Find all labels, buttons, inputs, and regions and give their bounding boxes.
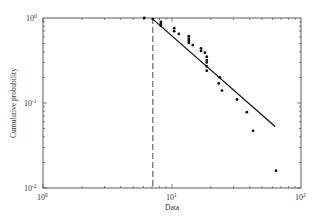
data-point bbox=[173, 30, 176, 33]
y-tick-label-1: 10-1 bbox=[24, 98, 37, 108]
y-axis-label: Cumulative probability bbox=[9, 68, 18, 138]
x-tick-labels: 100 101 102 bbox=[37, 192, 306, 202]
data-point bbox=[205, 65, 208, 68]
data-point bbox=[159, 24, 162, 27]
y-tick-label-2: 10-2 bbox=[24, 183, 37, 193]
x-tick-label-0: 100 bbox=[37, 192, 48, 202]
y-tick-label-0: 100 bbox=[26, 13, 37, 23]
x-tick-label-2: 102 bbox=[295, 192, 306, 202]
x-tick-label-1: 101 bbox=[166, 192, 177, 202]
data-point bbox=[200, 50, 203, 53]
data-point bbox=[236, 98, 239, 101]
data-point bbox=[187, 35, 190, 38]
data-point bbox=[205, 59, 208, 62]
fit-line-segment bbox=[153, 19, 275, 126]
data-point bbox=[200, 47, 203, 50]
plot-frame bbox=[43, 18, 301, 188]
data-point bbox=[205, 55, 208, 58]
data-point bbox=[205, 61, 208, 64]
data-point bbox=[275, 169, 278, 172]
data-point bbox=[143, 17, 146, 20]
axis-ticks bbox=[43, 18, 301, 188]
data-point bbox=[187, 41, 190, 44]
data-point bbox=[177, 33, 180, 36]
data-point bbox=[218, 76, 221, 79]
x-axis-label: Data bbox=[165, 203, 180, 212]
data-point bbox=[252, 129, 255, 132]
data-point bbox=[173, 27, 176, 30]
chart: 100 10-1 10-2 100 101 102 Data Cumulativ… bbox=[0, 0, 321, 219]
data-point bbox=[151, 18, 154, 21]
data-point bbox=[221, 89, 224, 92]
data-points bbox=[143, 17, 277, 172]
data-point bbox=[191, 44, 194, 47]
data-point bbox=[217, 82, 220, 85]
y-tick-labels: 100 10-1 10-2 bbox=[24, 13, 37, 193]
data-point bbox=[204, 51, 207, 54]
fit-line bbox=[153, 19, 275, 126]
data-point bbox=[205, 69, 208, 72]
data-point bbox=[245, 111, 248, 114]
